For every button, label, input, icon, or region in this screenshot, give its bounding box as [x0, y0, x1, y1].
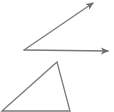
- ray-upper-arrow: [24, 3, 93, 50]
- angle: [24, 3, 108, 51]
- triangle: [2, 62, 70, 111]
- geometry-diagram: [0, 0, 114, 112]
- ray-lower-arrow: [24, 50, 108, 51]
